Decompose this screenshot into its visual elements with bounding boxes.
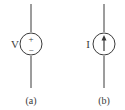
current-label: I	[86, 38, 90, 50]
current-source-symbol: I (b)	[86, 4, 115, 107]
plus-sign: +	[28, 34, 33, 44]
circuit-diagram: + − V (a) I (b)	[0, 0, 125, 110]
caption-b: (b)	[98, 95, 110, 107]
caption-a: (a)	[25, 95, 36, 107]
minus-sign: −	[28, 45, 33, 55]
voltage-source-symbol: + − V (a)	[11, 4, 42, 107]
voltage-label: V	[11, 38, 19, 50]
arrow-up-icon	[102, 35, 107, 41]
